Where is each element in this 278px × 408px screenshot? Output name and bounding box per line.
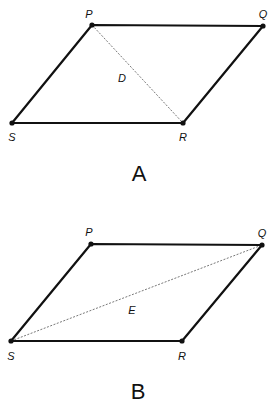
caption-b: B: [131, 379, 146, 404]
vertex-q-label: Q: [259, 8, 268, 20]
diagonal-pr: [92, 25, 183, 123]
vertex-q-label: Q: [258, 227, 267, 239]
vertex-s-dot: [8, 338, 13, 343]
vertex-s-dot: [9, 120, 14, 125]
vertex-s-label: S: [7, 350, 15, 362]
vertex-p-dot: [89, 22, 94, 27]
figure-a: P Q R S D A: [8, 8, 267, 186]
vertex-r-label: R: [179, 131, 187, 143]
diagonal-sq: [11, 245, 262, 341]
vertex-q-dot: [260, 23, 265, 28]
caption-a: A: [132, 161, 147, 186]
vertex-r-dot: [179, 338, 184, 343]
vertex-r-dot: [180, 120, 185, 125]
vertex-p-label: P: [85, 226, 93, 238]
vertex-r-label: R: [178, 350, 186, 362]
figure-b: P Q R S E B: [7, 226, 266, 404]
vertex-p-label: P: [85, 8, 93, 20]
vertex-s-label: S: [8, 131, 16, 143]
diagonal-label-e: E: [128, 304, 136, 316]
diagonal-label-d: D: [118, 72, 126, 84]
parallelogram-diagrams: P Q R S D A P Q R S E B: [0, 0, 278, 408]
vertex-q-dot: [259, 242, 264, 247]
vertex-p-dot: [88, 241, 93, 246]
